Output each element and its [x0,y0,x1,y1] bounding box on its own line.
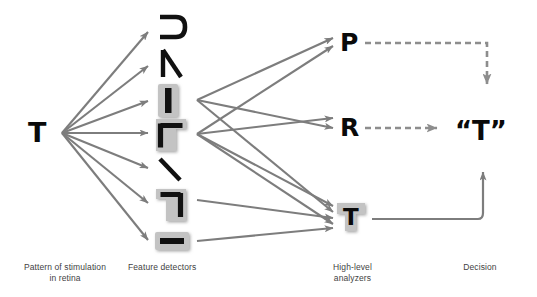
caption-retina-line1: Pattern of stimulation [10,262,120,273]
caption-analyzers: High-level analyzers [305,262,400,284]
caption-decision-line1: Decision [435,262,525,273]
detector-icon-vertical-bar [158,84,178,117]
connector-layer [0,0,537,297]
detector-icon-backslash [160,159,180,180]
caption-analyzers-line1: High-level [305,262,400,273]
detector-icon-corner-gamma [156,119,186,151]
caption-detectors-line1: Feature detectors [128,262,233,273]
stimulus-glyph-t: T [28,117,46,148]
caption-retina: Pattern of stimulation in retina [10,262,120,284]
analyzer-label-r: R [340,113,359,142]
detector-icon-horizontal-bar [155,232,189,250]
caption-analyzers-line2: analyzers [305,273,400,284]
caption-decision: Decision [435,262,525,273]
solid-path-t-to-decision [372,172,483,219]
caption-detectors: Feature detectors [128,262,233,273]
retina-to-detector-arrows [62,32,148,240]
detector-icon-curve-open-left [160,17,185,37]
dashed-path-p [365,43,487,84]
analyzer-label-p: P [340,28,358,57]
diagram-canvas: T P R T “T” Pattern of stimulation in re… [0,0,537,297]
detector-icon-corner-mirror [156,189,186,221]
decision-label: “T” [455,116,507,146]
detector-to-analyzer-arrows [197,38,333,241]
caption-retina-line2: in retina [10,273,120,284]
analyzer-label-t: T [343,204,359,230]
detector-icon-lambda-stroke [163,50,181,77]
